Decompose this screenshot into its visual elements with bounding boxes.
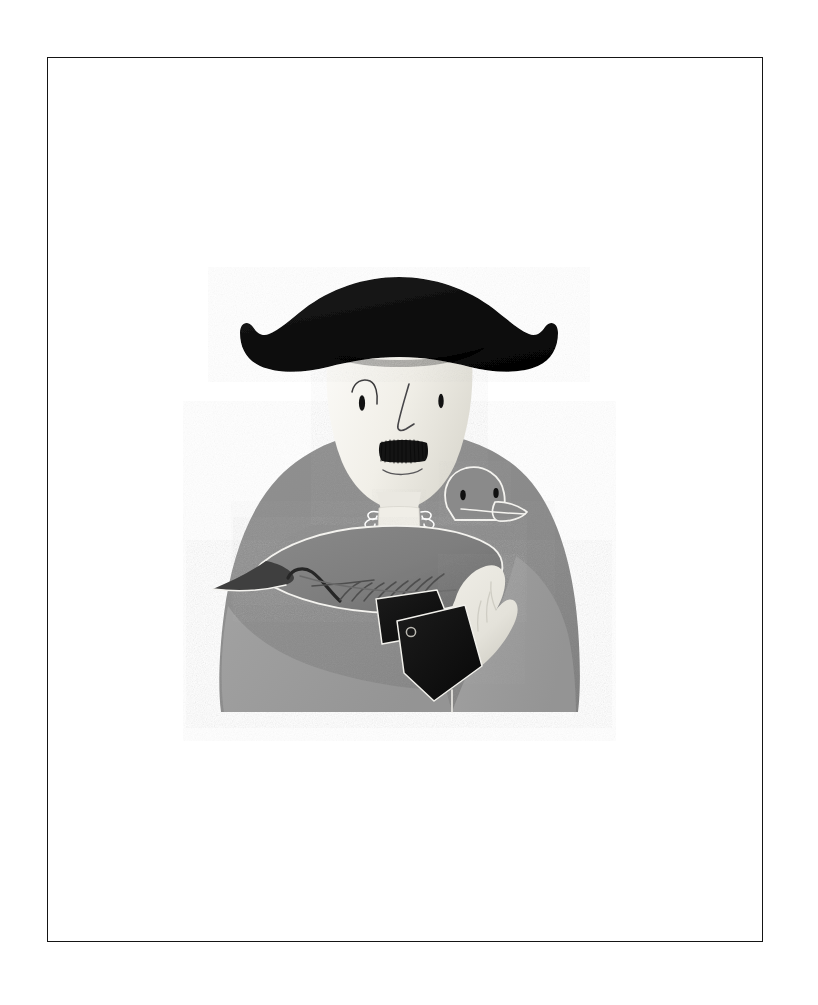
mustache bbox=[379, 440, 428, 463]
pigeon-right-eye bbox=[493, 488, 498, 498]
left-eye bbox=[359, 395, 365, 411]
right-eye bbox=[438, 394, 443, 408]
illustration-artwork bbox=[0, 0, 818, 1005]
page-root bbox=[0, 0, 818, 1005]
pigeon-left-eye bbox=[460, 490, 466, 500]
